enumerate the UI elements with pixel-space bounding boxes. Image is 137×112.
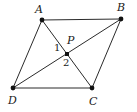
vertex-point-d xyxy=(11,86,16,91)
segment-BC xyxy=(92,19,121,88)
geometry-figure: ABCDP12 xyxy=(0,0,137,112)
segment-AB xyxy=(42,19,121,20)
vertex-point-a xyxy=(40,18,45,23)
vertex-label-b: B xyxy=(117,2,125,13)
vertex-point-c xyxy=(90,86,95,91)
angle-1-label: 1 xyxy=(54,43,60,53)
vertex-label-p: P xyxy=(67,35,74,46)
vertex-point-b xyxy=(119,17,124,22)
figure-canvas xyxy=(0,0,137,112)
vertex-label-d: D xyxy=(8,95,17,106)
vertex-point-p xyxy=(65,52,69,56)
vertex-label-c: C xyxy=(89,96,97,107)
vertex-label-a: A xyxy=(35,4,43,15)
segment-DA xyxy=(13,20,42,88)
angle-2-label: 2 xyxy=(63,58,69,68)
